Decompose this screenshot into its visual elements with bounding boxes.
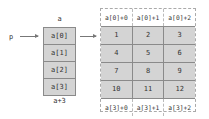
matrix-cell: 12 <box>164 81 195 98</box>
matrix-cell: 9 <box>164 63 195 80</box>
array-cell: a[0] <box>43 27 76 44</box>
matrix-row: 1 2 3 <box>101 26 195 44</box>
matrix-cell: 4 <box>101 45 133 62</box>
matrix-row: 10 11 12 <box>101 80 195 99</box>
matrix-cell: 8 <box>133 63 165 80</box>
matrix-cell: 6 <box>164 45 195 62</box>
matrix-cell: 1 <box>101 27 133 44</box>
header-cell: a[0]+0 <box>101 9 133 26</box>
pointer-arrow-icon <box>20 36 38 37</box>
array-cell: a[2] <box>43 61 76 78</box>
array-title: a <box>43 15 76 23</box>
array-cell: a[3] <box>43 78 76 96</box>
footer-cell: a[3]+2 <box>164 99 195 116</box>
header-cell: a[0]+2 <box>164 9 195 26</box>
matrix-footer-row: a[3]+0 a[3]+1 a[3]+2 <box>101 99 195 116</box>
matrix-row: 7 8 9 <box>101 62 195 80</box>
matrix-cell: 2 <box>133 27 165 44</box>
footer-cell: a[3]+1 <box>133 99 165 116</box>
matrix-grid: a[0]+0 a[0]+1 a[0]+2 1 2 3 4 5 6 7 8 9 1… <box>100 8 196 112</box>
matrix-row: 4 5 6 <box>101 44 195 62</box>
footer-cell: a[3]+0 <box>101 99 133 116</box>
matrix-cell: 3 <box>164 27 195 44</box>
matrix-header-row: a[0]+0 a[0]+1 a[0]+2 <box>101 9 195 26</box>
row-arrow-icon <box>80 36 96 37</box>
array-a-column: a[0] a[1] a[2] a[3] <box>43 27 76 96</box>
matrix-cell: 10 <box>101 81 133 98</box>
array-footer: a+3 <box>43 97 76 105</box>
matrix-cell: 5 <box>133 45 165 62</box>
matrix-cell: 11 <box>133 81 165 98</box>
array-cell: a[1] <box>43 44 76 61</box>
pointer-label: p <box>5 33 17 41</box>
header-cell: a[0]+1 <box>133 9 165 26</box>
matrix-cell: 7 <box>101 63 133 80</box>
